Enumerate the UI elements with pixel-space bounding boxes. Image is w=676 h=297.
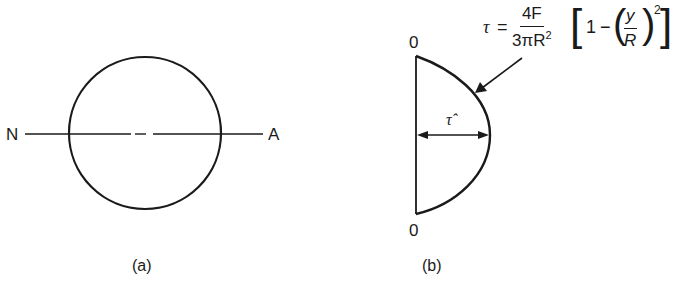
axis-label-a: A bbox=[268, 126, 279, 143]
top-zero-label: 0 bbox=[409, 34, 418, 51]
inner-denominator-text: R bbox=[624, 31, 636, 50]
denominator-var: R bbox=[533, 31, 545, 50]
formula-fraction: 4F 3πR2 bbox=[512, 4, 552, 51]
inner-denominator: R bbox=[624, 29, 636, 51]
numerator-text: 4F bbox=[522, 4, 542, 23]
max-stress-label: τ̂ bbox=[446, 112, 452, 128]
formula-equals: = bbox=[497, 18, 508, 36]
axis-label-n: N bbox=[6, 126, 18, 143]
inner-numerator: y bbox=[624, 6, 637, 29]
formula-pointer-arrow bbox=[475, 58, 522, 93]
diagram-canvas: N A (a) 0 0 τ̂ (b) τ = 4F 3πR2 [ 1 − ( y… bbox=[0, 0, 676, 297]
formula-bracket-close: ] bbox=[660, 3, 672, 47]
formula-one: 1 bbox=[586, 18, 596, 36]
formula-inner-fraction: y R bbox=[624, 6, 637, 51]
caption-a: (a) bbox=[132, 258, 152, 274]
caption-b: (b) bbox=[422, 258, 442, 274]
circular-cross-section bbox=[69, 57, 221, 209]
bottom-zero-label: 0 bbox=[409, 222, 418, 239]
formula-lhs-tau: τ bbox=[483, 18, 489, 36]
formula-denominator: 3πR2 bbox=[512, 27, 552, 51]
formula-numerator: 4F bbox=[520, 4, 544, 27]
denominator-prefix: 3π bbox=[512, 31, 533, 50]
denominator-exponent: 2 bbox=[545, 29, 551, 41]
formula-bracket-open: [ bbox=[570, 3, 582, 47]
formula-minus: − bbox=[600, 18, 611, 36]
max-stress-dimension-arrow bbox=[417, 131, 489, 139]
inner-numerator-text: y bbox=[626, 6, 635, 25]
